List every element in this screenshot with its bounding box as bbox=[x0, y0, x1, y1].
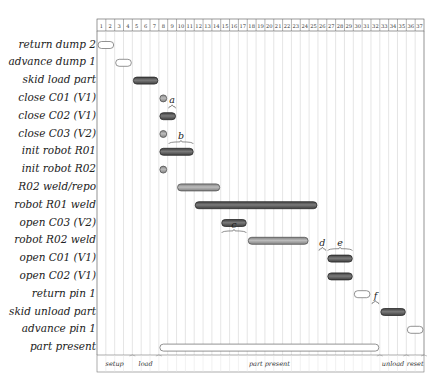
column-number: 13 bbox=[204, 23, 211, 29]
task-label: R02 weld/repo bbox=[18, 180, 96, 192]
task-label: skid load part bbox=[23, 73, 96, 85]
annotation-label: a bbox=[169, 94, 175, 105]
task-bar bbox=[116, 59, 132, 66]
column-number: 7 bbox=[153, 23, 156, 29]
task-label: return pin 1 bbox=[32, 287, 96, 299]
column-number: 15 bbox=[222, 23, 229, 29]
column-number: 32 bbox=[372, 23, 379, 29]
column-number: 35 bbox=[399, 23, 406, 29]
task-label: open C03 (V2) bbox=[19, 216, 96, 228]
task-label: return dump 2 bbox=[18, 38, 96, 50]
task-bar bbox=[328, 255, 353, 262]
task-label: advance pin 1 bbox=[22, 322, 96, 334]
column-number: 22 bbox=[284, 23, 291, 29]
annotation-label: f bbox=[373, 290, 379, 301]
task-bar bbox=[160, 113, 176, 120]
annotation-brace bbox=[169, 105, 176, 109]
task-label: advance dump 1 bbox=[8, 55, 96, 67]
task-label: part present bbox=[30, 340, 96, 352]
task-bar bbox=[160, 131, 167, 138]
column-number: 21 bbox=[275, 23, 282, 29]
task-bar bbox=[160, 166, 167, 173]
column-number: 12 bbox=[195, 23, 202, 29]
column-number: 34 bbox=[390, 23, 397, 29]
gantt-chart: 1234567891011121314151617181920212223242… bbox=[0, 0, 444, 389]
task-label: open C01 (V1) bbox=[19, 251, 96, 263]
annotation-brace bbox=[372, 301, 379, 305]
column-number: 27 bbox=[328, 23, 335, 29]
task-labels: return dump 2advance dump 1skid load par… bbox=[0, 0, 96, 389]
task-label: init robot R02 bbox=[22, 162, 96, 174]
annotation-label: c bbox=[231, 219, 237, 230]
phase-label: reset bbox=[407, 360, 424, 368]
task-label: robot R01 weld bbox=[14, 198, 96, 210]
task-bar bbox=[381, 309, 406, 316]
annotation-brace bbox=[319, 247, 326, 251]
task-bar bbox=[407, 326, 423, 333]
task-label: skid unload part bbox=[9, 305, 96, 317]
column-number: 18 bbox=[248, 23, 255, 29]
column-number: 10 bbox=[178, 23, 185, 29]
column-number: 8 bbox=[162, 23, 165, 29]
task-label: close C01 (V1) bbox=[18, 91, 96, 103]
column-number: 5 bbox=[135, 23, 138, 29]
annotation-label: d bbox=[319, 237, 325, 248]
column-number: 11 bbox=[186, 23, 193, 29]
task-bar bbox=[133, 77, 158, 84]
task-bar bbox=[160, 344, 379, 351]
column-number: 23 bbox=[293, 23, 300, 29]
task-bar bbox=[248, 237, 308, 244]
column-number: 36 bbox=[407, 23, 414, 29]
task-bar bbox=[98, 42, 114, 49]
column-number: 25 bbox=[310, 23, 317, 29]
task-bar bbox=[160, 95, 167, 102]
column-number: 28 bbox=[337, 23, 344, 29]
phase-label: part present bbox=[249, 360, 290, 368]
column-number: 37 bbox=[416, 23, 423, 29]
column-number: 17 bbox=[240, 23, 247, 29]
column-number: 29 bbox=[346, 23, 353, 29]
column-number: 31 bbox=[363, 23, 370, 29]
column-number: 33 bbox=[381, 23, 388, 29]
column-number: 26 bbox=[319, 23, 326, 29]
column-number: 14 bbox=[213, 23, 220, 29]
column-number: 16 bbox=[231, 23, 238, 29]
column-number: 30 bbox=[354, 23, 361, 29]
column-number: 9 bbox=[170, 23, 173, 29]
annotation-label: b bbox=[178, 130, 184, 141]
annotation-brace bbox=[169, 140, 194, 144]
task-label: close C03 (V2) bbox=[18, 127, 96, 139]
task-label: close C02 (V1) bbox=[18, 109, 96, 121]
annotation-brace bbox=[328, 247, 353, 251]
phase-label: unload bbox=[382, 360, 404, 368]
task-bar bbox=[328, 273, 353, 280]
task-label: open C02 (V1) bbox=[19, 269, 96, 281]
phase-label: load bbox=[139, 360, 153, 368]
column-number: 2 bbox=[109, 23, 112, 29]
phase-label: setup bbox=[106, 360, 125, 368]
task-bar bbox=[195, 202, 317, 209]
column-number: 19 bbox=[257, 23, 264, 29]
task-label: init robot R01 bbox=[22, 144, 96, 156]
column-number: 6 bbox=[144, 23, 147, 29]
annotation-label: e bbox=[337, 237, 343, 248]
task-bar bbox=[354, 291, 370, 298]
task-label: robot R02 weld bbox=[14, 233, 96, 245]
task-bar bbox=[178, 184, 220, 191]
column-number: 24 bbox=[301, 23, 308, 29]
column-number: 1 bbox=[100, 23, 103, 29]
column-number: 20 bbox=[266, 23, 273, 29]
task-bar bbox=[160, 148, 193, 155]
annotation-brace bbox=[222, 229, 247, 233]
column-number: 3 bbox=[117, 23, 120, 29]
